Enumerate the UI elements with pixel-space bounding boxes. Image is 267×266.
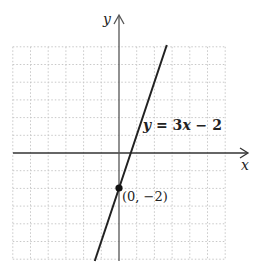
equation-y: y <box>143 117 151 133</box>
equation-x: x <box>182 117 190 133</box>
x-axis-label: x <box>241 157 249 173</box>
equation-rest: − 2 <box>191 117 222 133</box>
coordinate-graph <box>0 0 267 266</box>
y-axis-label: y <box>103 11 111 27</box>
equation-eq: = 3 <box>151 117 182 133</box>
point-label: (0, −2) <box>122 189 168 204</box>
equation-label: y = 3x − 2 <box>143 117 222 133</box>
